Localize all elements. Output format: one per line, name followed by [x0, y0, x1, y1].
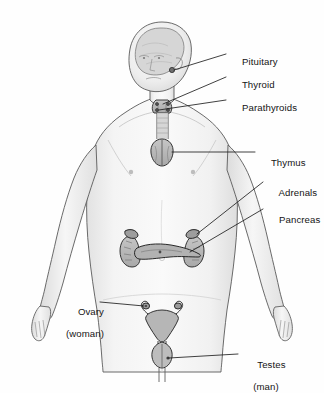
label-thyroid-text: Thyroid: [242, 79, 275, 90]
testes-scrotum: [152, 342, 172, 382]
label-thymus: Thymus: [260, 146, 306, 179]
label-testes: Testes (man): [240, 348, 292, 393]
label-testes-text: Testes: [257, 359, 285, 370]
label-ovary: Ovary (woman): [40, 295, 104, 361]
label-ovary-text: Ovary: [78, 306, 104, 317]
label-parathyroids: Parathyroids: [231, 91, 297, 124]
thymus-gland: [151, 139, 173, 166]
label-adrenals-text: Adrenals: [279, 187, 318, 198]
label-testes-subtext: (man): [240, 381, 292, 392]
label-ovary-subtext: (woman): [40, 328, 104, 339]
label-pituitary-text: Pituitary: [242, 56, 278, 67]
label-parathyroids-text: Parathyroids: [242, 102, 297, 113]
endocrine-diagram: Pituitary Thyroid Parathyroids Thymus Ad…: [0, 0, 324, 393]
label-pancreas-text: Pancreas: [279, 214, 320, 225]
label-thymus-text: Thymus: [271, 157, 306, 168]
label-pancreas: Pancreas: [268, 203, 320, 236]
